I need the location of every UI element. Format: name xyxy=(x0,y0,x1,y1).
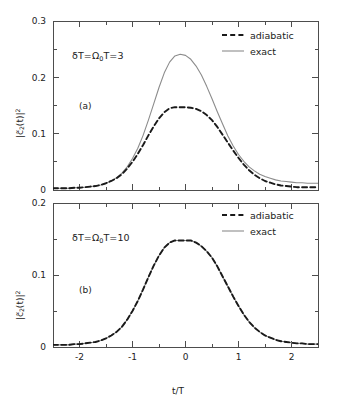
legend-label-adiabatic: adiabatic xyxy=(250,210,294,221)
panel-a-tag: (a) xyxy=(79,101,92,111)
panel-b-plot: 00.10.2-2-1012adiabaticexact xyxy=(0,196,341,406)
legend-label-exact: exact xyxy=(250,46,276,57)
y-tick-label: 0.1 xyxy=(32,129,46,139)
panel-a-plot: 00.10.20.3adiabaticexact xyxy=(0,0,341,200)
panel-b-tag: (b) xyxy=(79,285,92,295)
series-line-exact xyxy=(53,240,318,344)
x-tick-label: -1 xyxy=(128,352,137,362)
figure-root: |c̃2(t)|2 |c̃2(t)|2 00.10.20.3adiabatice… xyxy=(0,0,341,406)
panel-b-annotation: δT=Ω0T=10 xyxy=(72,232,130,245)
y-tick-label: 0.1 xyxy=(32,270,46,280)
x-tick-label: -2 xyxy=(75,352,84,362)
y-tick-label: 0.2 xyxy=(32,198,46,208)
legend-label-exact: exact xyxy=(250,226,276,237)
panel-b: 00.10.2-2-1012adiabaticexact xyxy=(0,196,341,406)
x-tick-label: 1 xyxy=(236,352,242,362)
y-tick-label: 0 xyxy=(40,342,46,352)
y-tick-label: 0 xyxy=(40,185,46,195)
legend: adiabaticexact xyxy=(222,210,294,237)
x-axis-label: t/T xyxy=(172,386,184,396)
series-line-adiabatic xyxy=(53,240,318,344)
x-tick-label: 0 xyxy=(183,352,189,362)
series-line-exact xyxy=(53,54,318,188)
panel-a: 00.10.20.3adiabaticexact xyxy=(0,0,341,200)
x-tick-label: 2 xyxy=(289,352,295,362)
panel-a-annotation: δT=Ω0T=3 xyxy=(72,50,124,63)
y-tick-label: 0.3 xyxy=(32,16,46,26)
legend-label-adiabatic: adiabatic xyxy=(250,30,294,41)
y-tick-label: 0.2 xyxy=(32,73,46,83)
series-line-adiabatic xyxy=(53,107,318,188)
legend: adiabaticexact xyxy=(222,30,294,57)
